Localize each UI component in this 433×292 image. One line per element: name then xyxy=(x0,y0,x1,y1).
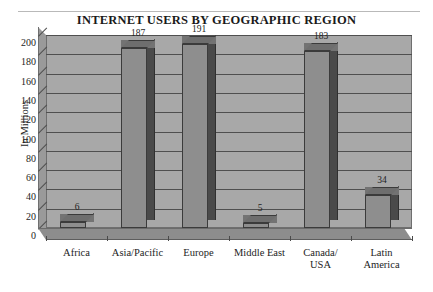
gridline xyxy=(46,54,412,55)
gridline-depth-stub xyxy=(38,133,47,142)
bar-side-face xyxy=(208,35,216,220)
bar xyxy=(60,214,86,228)
bar-front-face xyxy=(365,195,391,228)
y-axis-tick-labels: 200180160140120100806040200 xyxy=(0,0,36,292)
bar-chart: INTERNET USERS BY GEOGRAPHIC REGION In M… xyxy=(0,0,433,292)
category-label-line: Latin xyxy=(343,247,420,259)
gridline-depth-stub xyxy=(38,113,47,122)
gridline xyxy=(46,132,412,133)
bar-value-label: 34 xyxy=(353,175,411,185)
x-axis-tick xyxy=(46,236,47,241)
gridline-depth-stub xyxy=(38,94,47,103)
bar-value-label: 5 xyxy=(231,203,289,213)
x-axis-tick xyxy=(168,236,169,241)
y-axis-tick-label: 120 xyxy=(6,114,36,125)
bar-top-face xyxy=(243,215,277,223)
x-axis-tick xyxy=(229,236,230,241)
gridline xyxy=(46,189,412,190)
y-axis-tick-label: 80 xyxy=(6,153,36,164)
bar-side-face xyxy=(147,39,155,220)
category-label-line: America xyxy=(343,259,420,271)
gridline xyxy=(46,112,412,113)
gridline xyxy=(46,93,412,94)
y-axis-tick-label: 60 xyxy=(6,172,36,183)
plot-area: 200180160140120100806040200 618719151833… xyxy=(0,0,433,292)
y-axis-tick-label: 0 xyxy=(6,230,36,241)
y-axis-tick-label: 140 xyxy=(6,95,36,106)
gridline-depth-stub xyxy=(38,55,47,64)
x-axis-tick xyxy=(412,236,413,241)
bar-top-face xyxy=(304,43,338,51)
gridline-depth-stub xyxy=(38,36,47,45)
bar-top-face xyxy=(365,187,399,195)
bar-front-face xyxy=(182,44,208,228)
bar-top-face xyxy=(182,36,216,44)
y-axis-tick-label: 40 xyxy=(6,191,36,202)
bar-top-face xyxy=(60,214,94,222)
bar-side-face xyxy=(330,42,338,220)
y-axis-tick-label: 160 xyxy=(6,76,36,87)
gridline-depth-stub xyxy=(38,190,47,199)
bar xyxy=(365,187,391,228)
y-axis-tick-label: 100 xyxy=(6,134,36,145)
x-axis-category-label: LatinAmerica xyxy=(343,247,420,270)
y-axis-tick-label: 180 xyxy=(6,56,36,67)
bar xyxy=(121,40,147,228)
bar-front-face xyxy=(121,48,147,228)
bar-front-face xyxy=(60,222,86,228)
bar xyxy=(243,215,269,228)
gridline-depth-stub xyxy=(38,171,47,180)
bar-front-face xyxy=(304,51,330,228)
gridline-depth-stub xyxy=(38,152,47,161)
y-axis-tick-label: 20 xyxy=(6,211,36,222)
gridline-depth-stub xyxy=(38,210,47,219)
gridline xyxy=(46,74,412,75)
floor-top-edge xyxy=(38,228,412,229)
y-axis-tick-label: 200 xyxy=(6,37,36,48)
bar-value-label: 6 xyxy=(48,202,106,212)
bar-front-face xyxy=(243,223,269,228)
bar xyxy=(182,36,208,228)
x-axis-tick xyxy=(351,236,352,241)
x-axis-tick xyxy=(290,236,291,241)
bar-value-label: 187 xyxy=(109,28,167,38)
bar-value-label: 191 xyxy=(170,24,228,34)
gridline xyxy=(46,170,412,171)
bar xyxy=(304,43,330,228)
gridline xyxy=(46,35,412,36)
gridline-depth-stub xyxy=(38,75,47,84)
bar-value-label: 183 xyxy=(292,31,350,41)
x-axis-tick xyxy=(107,236,108,241)
bar-top-face xyxy=(121,40,155,48)
gridline xyxy=(46,151,412,152)
